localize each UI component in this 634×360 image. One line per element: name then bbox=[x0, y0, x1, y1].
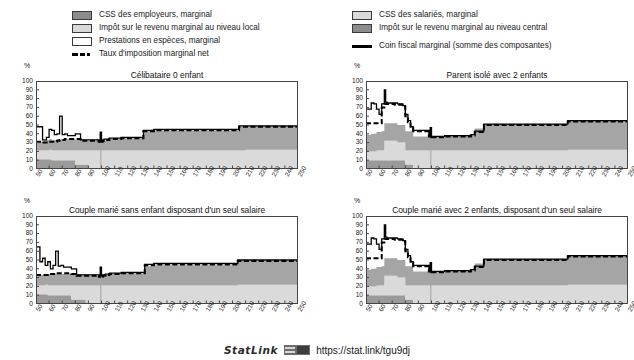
swatch-dark-gray-icon bbox=[72, 11, 92, 20]
y-tick-label: 20 bbox=[356, 148, 363, 155]
legend-label: Impôt sur le revenu marginal au niveau l… bbox=[99, 23, 260, 33]
x-tick-label: 80 bbox=[403, 303, 413, 313]
panel-title: Couple marié sans enfant disposant d'un … bbox=[36, 205, 298, 215]
x-tick-label: 60 bbox=[47, 303, 57, 313]
x-tick-label: 70 bbox=[60, 168, 70, 178]
x-tick-label: 70 bbox=[390, 168, 400, 178]
legend-item-prestations: Prestations en espèces, marginal bbox=[72, 35, 322, 47]
y-tick-label: 90 bbox=[356, 87, 363, 94]
y-tick-label: 0 bbox=[359, 301, 363, 308]
x-axis-tick-labels: 5060708090100110120130140150160170180190… bbox=[366, 170, 628, 196]
swatch-white-icon bbox=[72, 37, 92, 46]
legend-label: CSS des employeurs, marginal bbox=[99, 10, 212, 20]
plot-area bbox=[36, 216, 298, 304]
legend-label: Impôt sur le revenu marginal au niveau c… bbox=[379, 23, 547, 33]
dashed-line-icon bbox=[72, 50, 92, 59]
panel-title: Parent isolé avec 2 enfants bbox=[366, 70, 628, 80]
statlink-label: StatLink bbox=[224, 344, 278, 356]
legend-label: Taux d'imposition marginal net bbox=[99, 49, 209, 59]
plot-area bbox=[36, 81, 298, 169]
y-axis-unit-label: % bbox=[354, 62, 360, 69]
y-tick-label: 60 bbox=[356, 248, 363, 255]
y-tick-label: 90 bbox=[26, 222, 33, 229]
statlink-footer: StatLink https://stat.link/tgu9dj bbox=[0, 344, 634, 356]
x-tick-label: 90 bbox=[86, 303, 96, 313]
plot-area bbox=[366, 216, 628, 304]
x-tick-label: 80 bbox=[403, 168, 413, 178]
y-tick-label: 10 bbox=[26, 292, 33, 299]
y-tick-label: 30 bbox=[26, 274, 33, 281]
swatch-light-gray-icon bbox=[72, 24, 92, 33]
y-tick-label: 70 bbox=[356, 239, 363, 246]
x-tick-label: 80 bbox=[73, 168, 83, 178]
y-tick-label: 100 bbox=[22, 213, 33, 220]
y-tick-label: 30 bbox=[356, 139, 363, 146]
statlink-url[interactable]: https://stat.link/tgu9dj bbox=[316, 345, 410, 356]
legend-label: CSS des salariés, marginal bbox=[379, 10, 478, 20]
y-tick-label: 30 bbox=[26, 139, 33, 146]
x-tick-label: 90 bbox=[416, 303, 426, 313]
legend-item-css-salaries: CSS des salariés, marginal bbox=[352, 9, 622, 21]
y-tick-label: 70 bbox=[356, 104, 363, 111]
y-tick-label: 70 bbox=[26, 239, 33, 246]
y-tick-label: 10 bbox=[356, 157, 363, 164]
solid-line-icon bbox=[352, 42, 372, 51]
y-tick-label: 20 bbox=[26, 283, 33, 290]
y-tick-label: 20 bbox=[26, 148, 33, 155]
plot-area bbox=[366, 81, 628, 169]
x-tick-label: 50 bbox=[34, 303, 44, 313]
x-tick-label: 50 bbox=[364, 168, 374, 178]
x-tick-label: 70 bbox=[60, 303, 70, 313]
swatch-light-gray-icon bbox=[352, 11, 372, 20]
y-axis-unit-label: % bbox=[24, 197, 30, 204]
x-tick-label: 90 bbox=[86, 168, 96, 178]
legend-item-impot-central: Impôt sur le revenu marginal au niveau c… bbox=[352, 22, 622, 34]
x-tick-label: 80 bbox=[73, 303, 83, 313]
legend-item-coin-fiscal: Coin fiscal marginal (somme des composan… bbox=[352, 40, 622, 52]
y-tick-label: 60 bbox=[26, 113, 33, 120]
legend-item-taux-marginal-net: Taux d'imposition marginal net bbox=[72, 48, 322, 60]
y-tick-label: 0 bbox=[29, 301, 33, 308]
swatch-mid-gray-icon bbox=[352, 24, 372, 33]
y-axis-tick-labels: 0102030405060708090100 bbox=[346, 213, 363, 307]
x-tick-label: 50 bbox=[364, 303, 374, 313]
y-tick-label: 50 bbox=[26, 122, 33, 129]
y-tick-label: 10 bbox=[26, 157, 33, 164]
x-axis-tick-labels: 5060708090100110120130140150160170180190… bbox=[36, 305, 298, 331]
y-tick-label: 70 bbox=[26, 104, 33, 111]
y-tick-label: 90 bbox=[26, 87, 33, 94]
y-tick-label: 40 bbox=[26, 266, 33, 273]
panel-title: Célibataire 0 enfant bbox=[36, 70, 298, 80]
legend-label: Prestations en espèces, marginal bbox=[99, 36, 220, 46]
y-axis-tick-labels: 0102030405060708090100 bbox=[346, 78, 363, 172]
y-tick-label: 0 bbox=[29, 166, 33, 173]
x-tick-label: 90 bbox=[416, 168, 426, 178]
y-tick-label: 80 bbox=[26, 95, 33, 102]
x-axis-tick-labels: 5060708090100110120130140150160170180190… bbox=[366, 305, 628, 331]
y-tick-label: 20 bbox=[356, 283, 363, 290]
y-tick-label: 50 bbox=[26, 257, 33, 264]
y-axis-unit-label: % bbox=[354, 197, 360, 204]
y-tick-label: 0 bbox=[359, 166, 363, 173]
y-tick-label: 40 bbox=[26, 131, 33, 138]
legend-right-column: CSS des salariés, marginal Impôt sur le … bbox=[352, 9, 622, 53]
y-axis-tick-labels: 0102030405060708090100 bbox=[16, 213, 33, 307]
x-tick-label: 60 bbox=[47, 168, 57, 178]
y-tick-label: 100 bbox=[352, 213, 363, 220]
y-tick-label: 90 bbox=[356, 222, 363, 229]
x-tick-label: 70 bbox=[390, 303, 400, 313]
y-tick-label: 50 bbox=[356, 257, 363, 264]
chart-page: CSS des employeurs, marginal Impôt sur l… bbox=[0, 0, 634, 360]
y-tick-label: 100 bbox=[352, 78, 363, 85]
y-tick-label: 60 bbox=[26, 248, 33, 255]
panel-title: Couple marié avec 2 enfants, disposant d… bbox=[366, 205, 628, 215]
legend-item-css-employeurs: CSS des employeurs, marginal bbox=[72, 9, 322, 21]
x-tick-label: 50 bbox=[34, 168, 44, 178]
y-tick-label: 40 bbox=[356, 131, 363, 138]
y-tick-label: 60 bbox=[356, 113, 363, 120]
y-tick-label: 80 bbox=[356, 95, 363, 102]
x-tick-label: 60 bbox=[377, 303, 387, 313]
y-tick-label: 40 bbox=[356, 266, 363, 273]
statlink-barcode-icon bbox=[284, 345, 310, 355]
y-axis-tick-labels: 0102030405060708090100 bbox=[16, 78, 33, 172]
